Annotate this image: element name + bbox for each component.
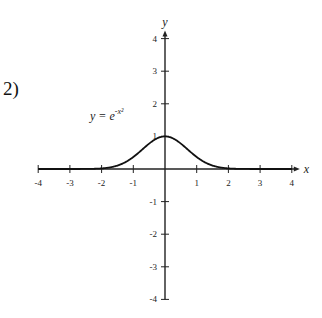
x-tick-label: -4 xyxy=(34,178,42,188)
y-tick-label: -2 xyxy=(150,229,158,239)
y-tick-label: -4 xyxy=(150,294,158,304)
y-axis-arrow-icon xyxy=(163,31,168,37)
x-tick-label: 3 xyxy=(258,178,263,188)
y-tick-label: 2 xyxy=(153,99,158,109)
y-tick-label: 3 xyxy=(153,66,158,76)
y-tick-label: -1 xyxy=(150,197,158,207)
x-tick-label: 4 xyxy=(290,178,295,188)
x-tick-label: -1 xyxy=(130,178,138,188)
x-tick-label: 2 xyxy=(226,178,231,188)
x-tick-label: 1 xyxy=(194,178,199,188)
plot-area: -4-3-2-11234-4-3-2-11234xy xyxy=(0,0,322,318)
x-axis-arrow-icon xyxy=(294,167,300,172)
x-tick-label: -2 xyxy=(98,178,106,188)
y-axis-label: y xyxy=(161,15,168,29)
x-tick-label: -3 xyxy=(66,178,74,188)
x-axis-label: x xyxy=(303,162,310,176)
y-tick-label: -3 xyxy=(150,262,158,272)
y-tick-label: 4 xyxy=(153,34,158,44)
